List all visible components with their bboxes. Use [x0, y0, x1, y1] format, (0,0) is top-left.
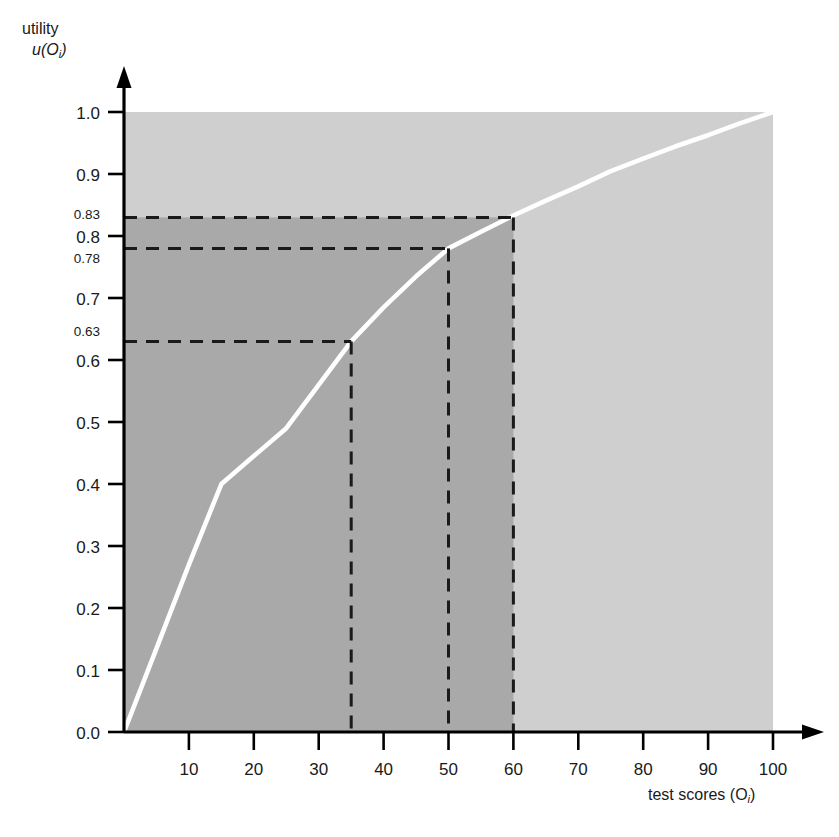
x-tick-label: 100: [759, 760, 787, 779]
y-tick-label: 0.5: [76, 414, 100, 433]
x-axis-ticks: [189, 732, 773, 750]
y-tick-label: 0.9: [76, 166, 100, 185]
x-tick-label: 10: [179, 760, 198, 779]
x-tick-label: 60: [504, 760, 523, 779]
y-tick-label: 0.3: [76, 538, 100, 557]
y-tick-label: 0.4: [76, 476, 100, 495]
y-tick-label: 0.1: [76, 662, 100, 681]
y-tick-label: 0.7: [76, 290, 100, 309]
x-tick-label: 50: [439, 760, 458, 779]
y-axis-tick-labels: 1.0 0.9 0.8 0.7 0.6 0.5 0.4 0.3 0.2 0.1 …: [76, 104, 100, 743]
y-tick-label: 0.0: [76, 724, 100, 743]
y-tick-label: 0.2: [76, 600, 100, 619]
y-tick-label: 1.0: [76, 104, 100, 123]
x-tick-label: 70: [569, 760, 588, 779]
y-axis-arrowhead: [117, 66, 132, 88]
x-axis-arrowhead: [802, 725, 824, 740]
x-tick-label: 20: [244, 760, 263, 779]
x-tick-label: 40: [374, 760, 393, 779]
y-tick-label: 0.6: [76, 352, 100, 371]
x-tick-label: 90: [699, 760, 718, 779]
x-tick-label: 80: [634, 760, 653, 779]
x-axis-tick-labels: 10 20 30 40 50 60 70 80 90 100: [179, 760, 787, 779]
annotation-label-083: 0.83: [74, 207, 100, 222]
annotation-label-063: 0.63: [74, 324, 100, 339]
x-tick-label: 30: [309, 760, 328, 779]
y-axis-ticks: [108, 112, 124, 732]
annotation-label-078: 0.78: [74, 251, 100, 266]
chart-figure: utility u(Oi) test scores (Oi): [0, 0, 839, 837]
shade-inner-region: [124, 217, 513, 732]
plot-svg: 1.0 0.9 0.8 0.7 0.6 0.5 0.4 0.3 0.2 0.1 …: [0, 0, 839, 837]
y-tick-label: 0.8: [76, 228, 100, 247]
